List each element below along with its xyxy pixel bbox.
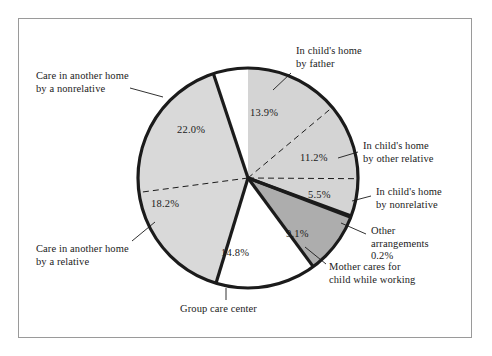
slice-category-label-line: Care in another home: [36, 70, 129, 83]
slice-category-label-line: In child's home: [363, 140, 434, 153]
slice-category-label-line: Mother cares for: [329, 261, 415, 274]
slice-category-label-line: by other relative: [363, 153, 434, 166]
slice-category-label-line: by a nonrelative: [36, 83, 129, 96]
slice-category-label: Care in another homeby a relative: [36, 243, 129, 268]
slice-percent-label: 14.8%: [221, 247, 249, 258]
slice-percent-label: 13.9%: [250, 107, 278, 118]
slice-percent-label: 5.5%: [308, 189, 331, 200]
slice-percent-label: 9.1%: [286, 228, 309, 239]
slice-category-label-line: child while working: [329, 274, 415, 287]
slice-percent-label: 18.2%: [151, 198, 179, 209]
slice-category-label-line: Care in another home: [36, 243, 129, 256]
slice-category-label: Care in another homeby a nonrelative: [36, 70, 129, 95]
slice-category-label: Group care center: [180, 303, 257, 316]
slice-category-label-line: In child's home: [296, 45, 362, 58]
slice-category-label-line: by a relative: [36, 256, 129, 269]
chart-page: 13.9%11.2%5.5%9.1%14.8%18.2%22.0% In chi…: [0, 0, 492, 356]
slice-category-label: In child's homeby father: [296, 45, 362, 70]
slice-category-label-line: In child's home: [376, 186, 442, 199]
callout-leader-line: [130, 88, 163, 97]
slice-category-label: In child's homeby other relative: [363, 140, 434, 165]
slice-category-label: Mother cares forchild while working: [329, 261, 415, 286]
slice-category-label-line: Group care center: [180, 303, 257, 316]
slice-percent-label: 22.0%: [177, 124, 205, 135]
slice-category-label-line: Other: [371, 225, 429, 238]
slice-category-label-line: by nonrelative: [376, 199, 442, 212]
slice-category-label-line: by father: [296, 58, 362, 71]
slice-category-label: In child's homeby nonrelative: [376, 186, 442, 211]
slice-percent-label: 11.2%: [300, 152, 328, 163]
slice-category-label-line: arrangements: [371, 238, 429, 251]
slice-category-label: Otherarrangements0.2%: [371, 225, 429, 263]
